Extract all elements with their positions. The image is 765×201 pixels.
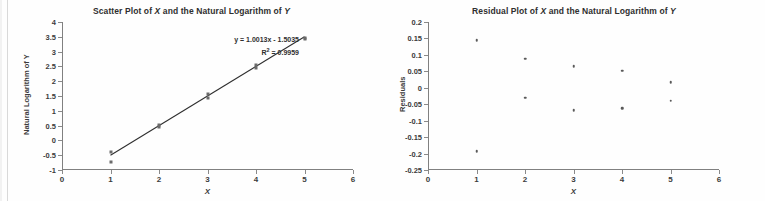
y-tick-label: 3 <box>52 47 56 56</box>
y-tick-label: 4 <box>52 18 56 27</box>
data-point <box>621 69 624 72</box>
residual-plot-title: Residual Plot of X and the Natural Logar… <box>383 6 765 16</box>
x-tick-mark <box>671 170 672 174</box>
y-tick-mark <box>424 137 428 138</box>
scatter-title-prefix: Scatter Plot of <box>93 6 155 16</box>
x-tick-mark <box>477 170 478 174</box>
x-tick-label: 1 <box>474 175 478 184</box>
y-tick-label: -1 <box>49 166 56 175</box>
y-tick-mark <box>58 81 62 82</box>
y-tick-mark <box>424 88 428 89</box>
y-tick-mark <box>424 55 428 56</box>
y-tick-label: 2 <box>52 77 56 86</box>
residual-plot-panel: Residual Plot of X and the Natural Logar… <box>383 0 765 201</box>
x-tick-label: 4 <box>620 175 624 184</box>
data-point <box>109 160 112 163</box>
data-point <box>572 65 575 68</box>
y-tick-mark <box>424 121 428 122</box>
scatter-r-squared-text: R2 = 0.9959 <box>234 45 299 58</box>
scatter-y-axis-title: Natural Logarithm of Y <box>22 54 31 135</box>
scatter-regression-annotation: y = 1.0013x - 1.5035 R2 = 0.9959 <box>234 35 299 58</box>
x-tick-label: 4 <box>254 175 258 184</box>
scatter-title-mid: and the Natural Logarithm of <box>160 6 284 16</box>
y-tick-label: 1 <box>52 106 56 115</box>
data-point <box>475 150 478 153</box>
y-tick-mark <box>58 111 62 112</box>
data-point <box>524 58 527 61</box>
scatter-plot-panel: Scatter Plot of X and the Natural Logari… <box>0 0 383 201</box>
x-tick-label: 6 <box>351 175 355 184</box>
figure-canvas: Scatter Plot of X and the Natural Logari… <box>0 0 765 201</box>
y-tick-mark <box>424 104 428 105</box>
y-tick-label: 0.2 <box>412 18 422 27</box>
residual-x-axis-title: X <box>571 187 576 196</box>
y-tick-label: 1.5 <box>46 92 56 101</box>
y-tick-mark <box>58 140 62 141</box>
x-tick-label: 6 <box>717 175 721 184</box>
y-tick-label: 0 <box>52 136 56 145</box>
data-point <box>669 99 672 102</box>
data-point <box>158 125 161 128</box>
x-tick-label: 3 <box>571 175 575 184</box>
x-tick-label: 0 <box>60 175 64 184</box>
y-tick-label: -0.5 <box>43 151 56 160</box>
scatter-equation-text: y = 1.0013x - 1.5035 <box>234 35 299 45</box>
x-tick-mark <box>719 170 720 174</box>
data-point <box>524 97 527 100</box>
data-point <box>255 67 258 70</box>
residual-title-mid: and the Natural Logarithm of <box>546 6 670 16</box>
y-tick-mark <box>58 37 62 38</box>
residual-plot-area: -0.25-0.2-0.15-0.1-0.0500.050.10.150.201… <box>428 22 719 170</box>
data-point <box>303 38 306 41</box>
scatter-title-var-y: Y <box>284 6 290 16</box>
y-tick-mark <box>58 96 62 97</box>
y-tick-label: -0.25 <box>405 166 422 175</box>
residual-y-axis-line <box>428 22 429 170</box>
y-tick-label: 0.1 <box>412 50 422 59</box>
x-tick-mark <box>208 170 209 174</box>
data-point <box>206 93 209 96</box>
y-tick-mark <box>58 22 62 23</box>
y-tick-label: 0.05 <box>407 67 422 76</box>
x-tick-mark <box>428 170 429 174</box>
x-tick-label: 3 <box>205 175 209 184</box>
data-point <box>475 39 478 42</box>
scatter-x-axis-title: X <box>205 187 210 196</box>
x-tick-mark <box>305 170 306 174</box>
x-tick-mark <box>525 170 526 174</box>
y-tick-mark <box>424 71 428 72</box>
y-tick-mark <box>58 66 62 67</box>
residual-title-var-y: Y <box>670 6 676 16</box>
x-tick-mark <box>353 170 354 174</box>
data-point <box>572 109 575 112</box>
x-tick-label: 0 <box>426 175 430 184</box>
y-tick-mark <box>424 154 428 155</box>
y-tick-mark <box>424 22 428 23</box>
x-tick-mark <box>62 170 63 174</box>
y-tick-label: 0.15 <box>407 34 422 43</box>
x-tick-label: 5 <box>302 175 306 184</box>
y-tick-label: 0 <box>418 83 422 92</box>
scatter-plot-title: Scatter Plot of X and the Natural Logari… <box>0 6 383 16</box>
x-tick-label: 2 <box>523 175 527 184</box>
x-tick-label: 2 <box>157 175 161 184</box>
y-tick-label: 3.5 <box>46 32 56 41</box>
x-tick-mark <box>111 170 112 174</box>
y-tick-label: 2.5 <box>46 62 56 71</box>
y-tick-mark <box>58 52 62 53</box>
y-tick-mark <box>58 126 62 127</box>
y-tick-label: 0.5 <box>46 121 56 130</box>
y-tick-label: -0.1 <box>409 116 422 125</box>
x-tick-mark <box>574 170 575 174</box>
y-tick-label: -0.15 <box>405 133 422 142</box>
y-tick-mark <box>424 38 428 39</box>
y-tick-label: -0.05 <box>405 100 422 109</box>
data-point <box>669 81 672 84</box>
residual-y-axis-title: Residuals <box>398 77 407 112</box>
x-tick-mark <box>622 170 623 174</box>
y-tick-mark <box>58 155 62 156</box>
scatter-plot-area: y = 1.0013x - 1.5035 R2 = 0.9959 -1-0.50… <box>62 22 353 170</box>
data-point <box>206 97 209 100</box>
x-tick-mark <box>159 170 160 174</box>
data-point <box>621 107 624 110</box>
